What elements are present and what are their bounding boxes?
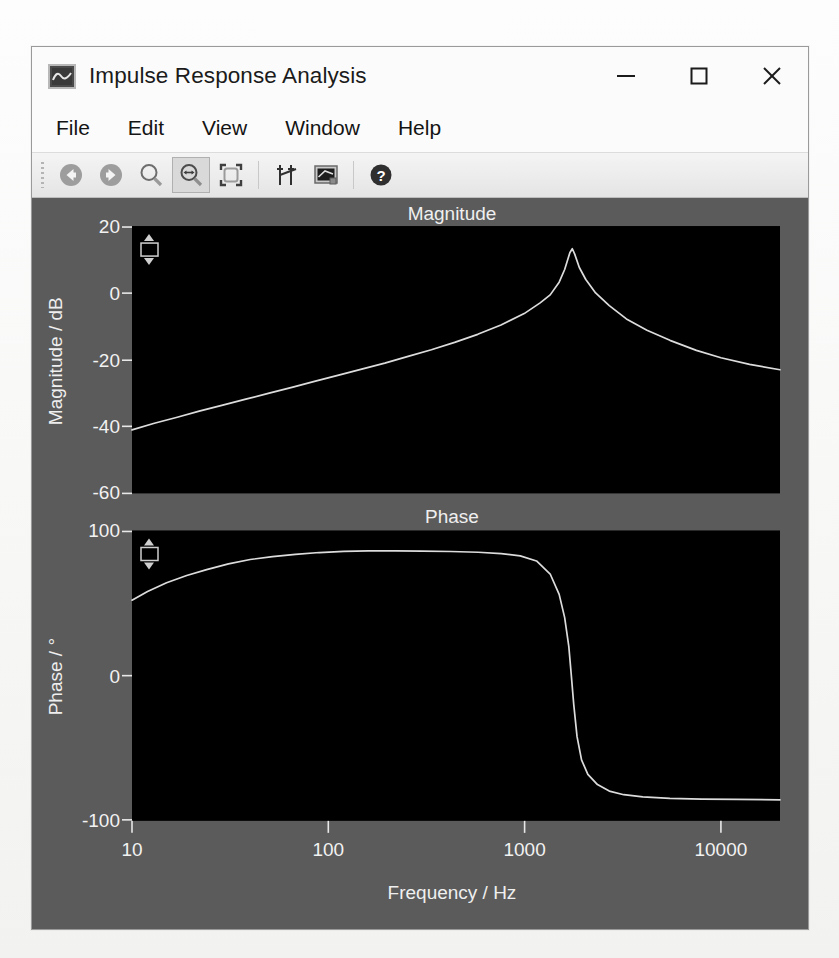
window-title: Impulse Response Analysis [89, 63, 367, 89]
magnitude-ytick--40: -40 [93, 416, 120, 437]
phase-ytick--100: -100 [82, 810, 120, 831]
plot-area[interactable]: Magnitude 20 0 -20 -40 -60 Magnitude / d… [32, 198, 808, 929]
magnitude-ytick--20: -20 [93, 350, 120, 371]
magnitude-y-axis: 20 0 -20 -40 -60 [93, 216, 132, 503]
toolbar-separator-1 [258, 161, 259, 189]
toolbar-separator-2 [353, 161, 354, 189]
magnitude-ytick-20: 20 [99, 216, 120, 237]
zoom-x-icon[interactable] [172, 157, 210, 193]
magnitude-plot-title: Magnitude [408, 203, 497, 224]
help-icon[interactable]: ? [362, 157, 400, 193]
toolbar: ? [32, 152, 808, 198]
x-axis-label: Frequency / Hz [388, 882, 517, 903]
menu-item-window[interactable]: Window [281, 114, 376, 144]
phase-ytick-0: 0 [109, 666, 120, 687]
maximize-button[interactable] [662, 47, 735, 105]
forward-icon[interactable] [92, 157, 130, 193]
magnitude-ytick--60: -60 [93, 482, 120, 503]
menu-item-help[interactable]: Help [394, 114, 457, 144]
close-button[interactable] [735, 47, 808, 105]
magnitude-y-axis-label: Magnitude / dB [45, 297, 66, 425]
frequency-x-axis: 10100100010000 [121, 821, 747, 860]
x-tick-label-100: 100 [312, 839, 344, 860]
phase-y-axis-label: Phase / ° [45, 638, 66, 715]
phase-plot-panel[interactable] [132, 530, 780, 820]
phase-y-axis: 100 0 -100 [82, 520, 132, 830]
back-icon[interactable] [52, 157, 90, 193]
x-tick-label-10000: 10000 [695, 839, 748, 860]
x-tick-label-1000: 1000 [503, 839, 545, 860]
zoom-icon[interactable] [132, 157, 170, 193]
x-tick-label-10: 10 [121, 839, 142, 860]
magnitude-ytick-0: 0 [109, 283, 120, 304]
waveform-app-icon [48, 64, 76, 89]
application-window: Impulse Response Analysis File Edit View… [31, 46, 809, 930]
menu-item-edit[interactable]: Edit [124, 114, 180, 144]
menu-item-view[interactable]: View [198, 114, 263, 144]
magnitude-plot-panel[interactable] [132, 226, 780, 493]
menu-bar: File Edit View Window Help [32, 106, 808, 152]
toolbar-grip[interactable] [37, 159, 47, 191]
svg-text:?: ? [376, 167, 385, 184]
fit-window-icon[interactable] [212, 157, 250, 193]
minimize-button[interactable] [589, 47, 662, 105]
bode-plot-svg[interactable]: Magnitude 20 0 -20 -40 -60 Magnitude / d… [32, 198, 808, 929]
menu-item-file[interactable]: File [52, 114, 106, 144]
phase-ytick-100: 100 [88, 520, 120, 541]
window-controls [589, 47, 808, 105]
cursors-icon[interactable] [267, 157, 305, 193]
phase-plot-title: Phase [425, 506, 479, 527]
title-bar: Impulse Response Analysis [32, 47, 808, 106]
display-icon[interactable] [307, 157, 345, 193]
